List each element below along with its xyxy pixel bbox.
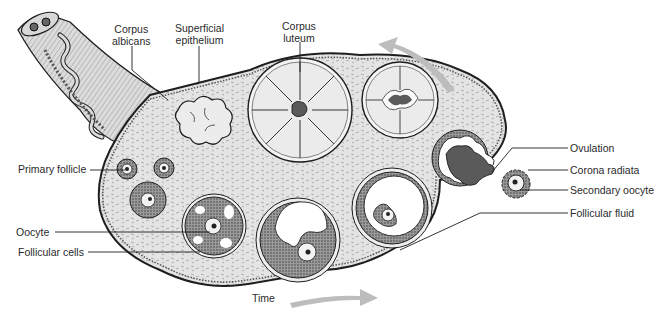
label-primary-follicle: Primary follicle — [18, 163, 86, 175]
regressing-corpus-luteum — [362, 62, 438, 138]
label-corpus-luteum-line2: luteum — [282, 32, 316, 44]
label-oocyte: Oocyte — [16, 226, 49, 238]
released-oocyte — [502, 170, 530, 198]
label-corpus-albicans: Corpus albicans — [112, 23, 151, 47]
label-corpus-luteum-line1: Corpus — [282, 20, 316, 32]
label-follicular-fluid: Follicular fluid — [570, 207, 634, 219]
label-superficial-epithelium-line2: epithelium — [175, 34, 224, 46]
label-secondary-oocyte: Secondary oocyte — [570, 184, 654, 196]
label-follicular-cells: Follicular cells — [18, 246, 84, 258]
label-superficial-epithelium: Superficial epithelium — [175, 22, 224, 46]
secondary-follicle — [182, 194, 246, 258]
antral-follicle — [256, 198, 340, 282]
label-ovulation: Ovulation — [570, 142, 614, 154]
label-corpus-albicans-line1: Corpus — [112, 23, 151, 35]
label-corona-radiata: Corona radiata — [570, 164, 639, 176]
corpus-luteum — [248, 58, 352, 162]
label-corpus-albicans-line2: albicans — [112, 35, 151, 47]
label-time: Time — [252, 292, 275, 304]
mature-follicle — [352, 168, 432, 248]
label-superficial-epithelium-line1: Superficial — [175, 22, 224, 34]
time-arrow-bottom-icon — [290, 289, 378, 308]
label-corpus-luteum: Corpus luteum — [282, 20, 316, 44]
